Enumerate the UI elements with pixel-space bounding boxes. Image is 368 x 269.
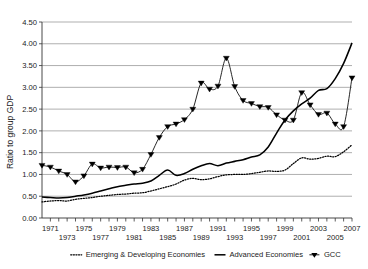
y-tick-label: 3.50 xyxy=(22,61,37,70)
data-point-marker xyxy=(156,136,162,141)
gridlines xyxy=(42,22,352,196)
data-point-marker xyxy=(341,125,347,130)
x-tick-label: 2005 xyxy=(327,233,344,242)
x-axis: 1971197519791983198719911995199920032007… xyxy=(42,218,361,242)
y-tick-label: 1.00 xyxy=(22,170,37,179)
y-tick-label: 0.50 xyxy=(22,192,37,201)
y-tick-label: 3.00 xyxy=(22,83,37,92)
x-tick-label: 1981 xyxy=(126,233,143,242)
y-tick-label: 4.50 xyxy=(22,18,37,27)
y-axis: 0.000.501.001.502.002.503.003.504.004.50 xyxy=(22,18,42,223)
data-point-marker xyxy=(114,166,120,171)
legend-item-label: Emerging & Developing Economies xyxy=(86,250,206,259)
y-tick-label: 1.50 xyxy=(22,148,37,157)
x-tick-label: 1983 xyxy=(142,224,159,233)
y-tick-label: 2.50 xyxy=(22,105,37,114)
x-tick-label: 1989 xyxy=(193,233,210,242)
legend-marker-triangle-down-icon xyxy=(311,253,317,258)
data-point-marker xyxy=(198,81,204,86)
data-point-marker xyxy=(148,153,154,158)
data-point-marker xyxy=(190,107,196,112)
data-point-marker xyxy=(73,180,79,185)
data-point-marker xyxy=(181,118,187,123)
x-tick-label: 1979 xyxy=(109,224,126,233)
legend-item-label: GCC xyxy=(324,250,341,259)
data-point-marker xyxy=(274,113,280,118)
data-point-marker xyxy=(223,56,229,61)
x-tick-label: 2003 xyxy=(310,224,327,233)
x-tick-label: 1987 xyxy=(176,224,193,233)
x-tick-label: 1997 xyxy=(260,233,277,242)
x-tick-label: 1999 xyxy=(277,224,294,233)
chart-figure: 0.000.501.001.502.002.503.003.504.004.50… xyxy=(0,0,368,269)
x-tick-label: 1975 xyxy=(75,224,92,233)
y-tick-label: 0.00 xyxy=(22,214,37,223)
chart-legend: Emerging & Developing EconomiesAdvanced … xyxy=(71,250,342,259)
y-tick-label: 2.00 xyxy=(22,127,37,136)
data-point-marker xyxy=(232,85,238,90)
y-axis-title: Ratio to group GDP xyxy=(5,95,15,170)
data-point-marker xyxy=(349,76,355,81)
legend-item-label: Advanced Economies xyxy=(230,250,304,259)
x-tick-label: 1977 xyxy=(92,233,109,242)
y-tick-label: 4.00 xyxy=(22,39,37,48)
x-tick-label: 1991 xyxy=(209,224,226,233)
x-tick-label: 1973 xyxy=(59,233,76,242)
data-point-marker xyxy=(265,106,271,111)
data-series xyxy=(39,43,355,202)
series-line-gcc xyxy=(42,58,352,182)
data-point-marker xyxy=(123,165,129,170)
x-tick-label: 1971 xyxy=(42,224,59,233)
data-point-marker xyxy=(240,99,246,104)
x-tick-label: 2001 xyxy=(293,233,310,242)
x-tick-label: 1993 xyxy=(226,233,243,242)
x-tick-label: 2007 xyxy=(344,224,361,233)
line-chart: 0.000.501.001.502.002.503.003.504.004.50… xyxy=(0,0,368,269)
data-point-marker xyxy=(131,171,137,176)
data-point-marker xyxy=(98,166,104,171)
x-tick-label: 1995 xyxy=(243,224,260,233)
x-tick-label: 1985 xyxy=(159,233,176,242)
